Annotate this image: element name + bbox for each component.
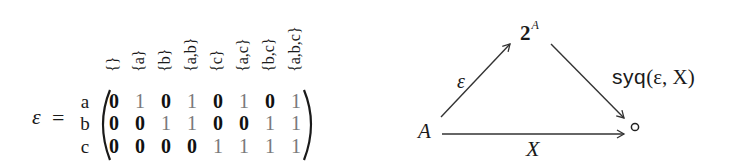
row-label-a: a bbox=[78, 92, 92, 111]
column-header-ac: {a,c} bbox=[235, 38, 251, 72]
matrix-lhs-epsilon: ε bbox=[32, 106, 41, 128]
matrix-cell: 1 bbox=[184, 91, 200, 111]
matrix-cell: 1 bbox=[288, 91, 304, 111]
node-circle-icon bbox=[630, 122, 640, 132]
matrix-cell: 0 bbox=[132, 113, 148, 133]
matrix-cell: 0 bbox=[210, 113, 226, 133]
matrix-cell: 0 bbox=[132, 136, 148, 156]
matrix-cell: 1 bbox=[236, 136, 252, 156]
column-header-abc: {a,b,c} bbox=[287, 26, 303, 72]
matrix-cell: 0 bbox=[106, 113, 122, 133]
matrix-cell: 1 bbox=[210, 136, 226, 156]
matrix-cell: 1 bbox=[288, 113, 304, 133]
matrix-cell: 1 bbox=[158, 113, 174, 133]
matrix-cell: 0 bbox=[106, 91, 122, 111]
diagram-arrows bbox=[400, 0, 749, 167]
node-A: A bbox=[418, 121, 431, 142]
matrix-cell: 0 bbox=[184, 136, 200, 156]
matrix-cell: 1 bbox=[262, 113, 278, 133]
matrix-cell: 0 bbox=[236, 113, 252, 133]
row-label-c: c bbox=[78, 137, 92, 156]
column-header-c: {c} bbox=[209, 50, 225, 72]
column-header-b: {b} bbox=[157, 49, 173, 72]
matrix-cell: 1 bbox=[236, 91, 252, 111]
column-header-empty: {} bbox=[105, 57, 121, 72]
node-power-set: 2A bbox=[520, 22, 539, 44]
matrix-parentheses bbox=[96, 88, 316, 164]
column-header-a: {a} bbox=[131, 50, 147, 72]
equals-sign: = bbox=[52, 107, 64, 129]
matrix-cell: 0 bbox=[262, 91, 278, 111]
matrix-cell: 1 bbox=[262, 136, 278, 156]
matrix-cell: 0 bbox=[106, 136, 122, 156]
label-epsilon: ε bbox=[457, 71, 465, 91]
label-syq: syq(ε, X) bbox=[612, 66, 695, 88]
matrix-cell: 1 bbox=[184, 113, 200, 133]
matrix-cell: 0 bbox=[158, 136, 174, 156]
arrow-epsilon bbox=[441, 44, 510, 117]
matrix-cell: 0 bbox=[158, 91, 174, 111]
row-label-b: b bbox=[78, 114, 92, 133]
label-X: X bbox=[526, 138, 539, 160]
matrix-cell: 0 bbox=[210, 91, 226, 111]
matrix-cell: 1 bbox=[288, 136, 304, 156]
column-header-ab: {a,b} bbox=[183, 38, 199, 72]
matrix-cell: 1 bbox=[132, 91, 148, 111]
column-header-bc: {b,c} bbox=[261, 38, 277, 72]
